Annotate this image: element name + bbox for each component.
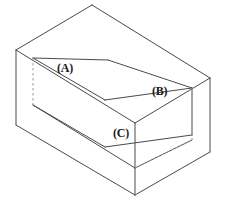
slot-rim-left-back <box>33 58 108 60</box>
label-b: (B) <box>152 85 167 97</box>
isometric-block-drawing <box>0 0 226 201</box>
edge-top-back-left <box>16 5 92 50</box>
label-c: (C) <box>113 127 129 139</box>
slot-floor-back-left <box>33 105 105 147</box>
figure-container: (A) (B) (C) <box>0 0 226 201</box>
label-a: (A) <box>57 62 73 74</box>
edge-topface-front-left <box>16 50 135 123</box>
slot-rim-near-right <box>105 88 192 100</box>
slot-rim-far-right <box>108 60 192 88</box>
edge-top-back-right <box>92 5 210 78</box>
edge-bottom-front-right <box>135 152 210 195</box>
edge-topface-front-right <box>135 78 210 123</box>
outer-solid-edges <box>16 5 210 195</box>
